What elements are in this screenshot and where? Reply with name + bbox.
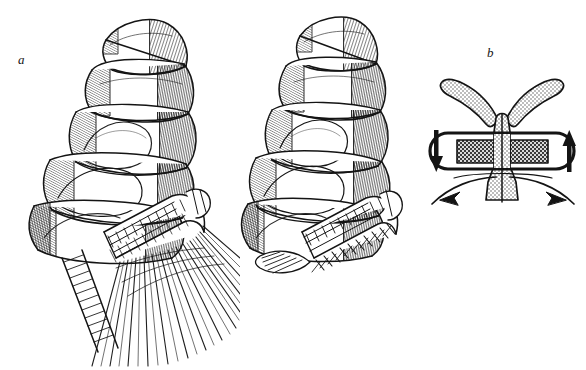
panel-c-schematic — [420, 0, 586, 370]
panel-b-drawing — [240, 0, 420, 370]
stippled-right-arm — [506, 80, 564, 127]
bar-right-checkered-block — [510, 140, 548, 163]
panel-a-label: a — [18, 53, 25, 66]
bar-left-checkered-block — [457, 140, 495, 163]
panel-a: a — [0, 0, 240, 370]
figure-container: a — [0, 0, 586, 370]
panel-b: b — [240, 0, 420, 370]
panel-c: c — [420, 0, 586, 370]
stippled-left-arm — [440, 80, 498, 127]
panel-a-drawing — [0, 0, 240, 370]
